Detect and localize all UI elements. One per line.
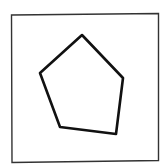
diagram-canvas [0, 0, 168, 167]
pentagon-shape [40, 35, 123, 134]
